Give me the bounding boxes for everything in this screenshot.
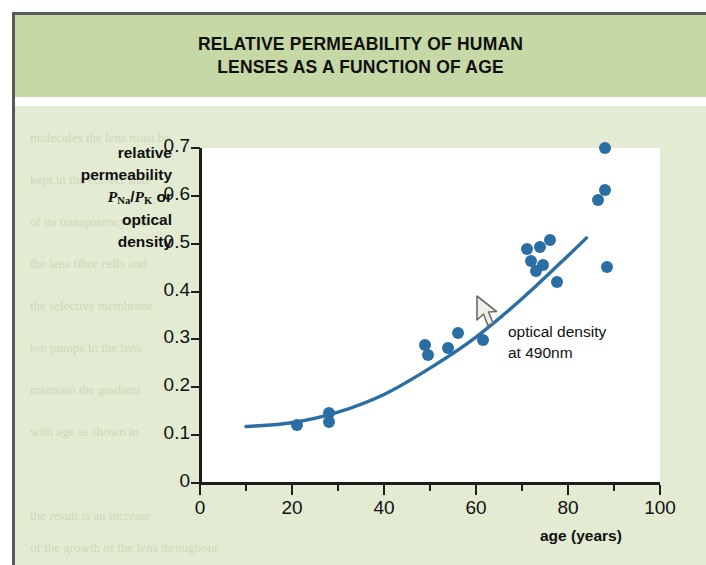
data-point — [592, 194, 604, 206]
y-axis-tick — [191, 195, 200, 197]
subscript-na: Na — [117, 195, 130, 206]
chart-title-line-2: LENSES AS A FUNCTION OF AGE — [198, 56, 523, 79]
y-axis-tick-label: 0.3 — [146, 326, 190, 348]
plot-area — [200, 148, 660, 483]
x-axis-tick — [291, 485, 293, 495]
data-point — [599, 142, 611, 154]
annotation-optical-density: optical density at 490nm — [508, 322, 606, 364]
or-word: or — [152, 188, 172, 205]
x-axis-tick-label: 100 — [630, 497, 690, 519]
data-point — [452, 327, 464, 339]
p-glyph-1: P — [108, 188, 117, 205]
y-axis-title-line-2: permeability — [46, 164, 172, 186]
annotation-line-1: optical density — [508, 322, 606, 343]
y-axis-tick-label: 0.2 — [146, 374, 190, 396]
x-axis-minor-tick — [613, 485, 615, 491]
y-axis-tick-label: 0.1 — [146, 422, 190, 444]
x-axis-tick — [199, 485, 201, 495]
data-point — [601, 261, 613, 273]
subscript-k: K — [144, 195, 152, 206]
symbol-p-na: PNa — [108, 188, 130, 205]
y-axis-tick-label: 0 — [146, 470, 190, 492]
p-glyph-2: P — [135, 188, 144, 205]
data-point — [521, 243, 533, 255]
x-axis-tick-label: 0 — [170, 497, 230, 519]
data-point — [537, 259, 549, 271]
y-axis-title-line-3: PNa/PK or — [46, 186, 172, 209]
y-axis-tick — [191, 434, 200, 436]
x-axis-title: age (years) — [540, 527, 622, 545]
arrow-cursor-icon — [474, 294, 500, 328]
data-point — [442, 342, 454, 354]
y-axis-title: relative permeability PNa/PK or optical … — [46, 142, 172, 253]
chart-title-band: RELATIVE PERMEABILITY OF HUMAN LENSES AS… — [15, 15, 706, 97]
figure-panel: RELATIVE PERMEABILITY OF HUMAN LENSES AS… — [0, 0, 706, 565]
data-point — [291, 419, 303, 431]
data-point — [551, 276, 563, 288]
y-axis-tick — [191, 147, 200, 149]
y-axis-tick — [191, 243, 200, 245]
x-axis-minor-tick — [429, 485, 431, 491]
annotation-line-2: at 490nm — [508, 343, 606, 364]
x-axis-tick — [659, 485, 661, 495]
y-axis-title-line-4: optical — [46, 209, 172, 231]
data-point — [544, 234, 556, 246]
x-axis-tick-label: 80 — [538, 497, 598, 519]
band-separator — [15, 97, 706, 106]
symbol-p-k: PK — [135, 188, 153, 205]
x-axis-minor-tick — [337, 485, 339, 491]
data-point — [323, 416, 335, 428]
y-axis-tick — [191, 338, 200, 340]
x-axis-minor-tick — [245, 485, 247, 491]
y-axis-tick-label: 0.4 — [146, 279, 190, 301]
plot-svg — [200, 148, 660, 483]
y-axis-tick — [191, 482, 200, 484]
y-axis-title-line-5: density — [46, 231, 172, 253]
x-axis-tick — [383, 485, 385, 495]
y-axis-tick — [191, 386, 200, 388]
y-axis-tick — [191, 291, 200, 293]
chart-title-line-1: RELATIVE PERMEABILITY OF HUMAN — [198, 33, 523, 56]
x-axis-tick-label: 20 — [262, 497, 322, 519]
y-axis-title-line-1: relative — [46, 142, 172, 164]
x-axis-tick-label: 40 — [354, 497, 414, 519]
data-point — [422, 349, 434, 361]
chart-title: RELATIVE PERMEABILITY OF HUMAN LENSES AS… — [198, 33, 523, 79]
y-axis-tick-labels: 00.10.20.30.40.50.60.7 — [140, 0, 190, 565]
x-axis-minor-tick — [521, 485, 523, 491]
x-axis-tick-label: 60 — [446, 497, 506, 519]
x-axis-tick — [475, 485, 477, 495]
data-point — [477, 334, 489, 346]
x-axis-tick — [567, 485, 569, 495]
